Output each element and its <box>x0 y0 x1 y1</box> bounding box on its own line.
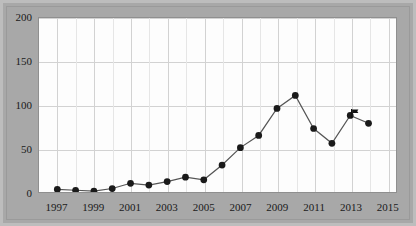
data-point-marker <box>274 105 281 112</box>
data-point-marker <box>182 174 189 181</box>
series-line <box>57 95 368 191</box>
data-point-marker <box>365 120 372 127</box>
data-point-marker <box>145 182 152 189</box>
data-point-marker <box>292 92 299 99</box>
x-tick-label: 2015 <box>377 201 399 213</box>
data-point-marker <box>54 186 61 192</box>
data-point-marker <box>200 176 207 183</box>
data-point-marker <box>310 125 317 132</box>
x-tick-label: 2001 <box>119 201 141 213</box>
x-tick-label: 2011 <box>303 201 325 213</box>
x-tick-label: 2007 <box>230 201 252 213</box>
x-tick-label: 2005 <box>193 201 215 213</box>
data-point-marker <box>255 132 262 139</box>
x-axis-labels: 1997199920012003200520072009201120132015 <box>38 199 397 221</box>
x-tick-label: 1999 <box>82 201 104 213</box>
line-series-layer <box>39 18 396 192</box>
data-point-marker <box>91 188 98 192</box>
y-tick-label: 100 <box>16 100 33 111</box>
x-tick-label: 2003 <box>156 201 178 213</box>
x-tick-label: 2009 <box>266 201 288 213</box>
x-tick-label: 2013 <box>340 201 362 213</box>
chart-frame: 200 150 100 50 0 19971999200120032005200… <box>0 0 416 226</box>
data-point-marker <box>127 180 134 187</box>
data-point-marker <box>219 162 226 169</box>
data-point-marker <box>329 140 336 147</box>
y-tick-label: 0 <box>27 188 33 199</box>
x-tick-label: 1997 <box>45 201 67 213</box>
y-axis-labels: 200 150 100 50 0 <box>3 17 34 193</box>
plot-area <box>38 17 397 193</box>
data-point-marker <box>237 144 244 151</box>
data-point-marker <box>164 178 171 185</box>
flag-icon <box>351 104 360 113</box>
y-tick-label: 50 <box>21 144 32 155</box>
y-tick-label: 150 <box>16 56 33 67</box>
y-tick-label: 200 <box>16 12 33 23</box>
data-point-marker <box>109 185 116 192</box>
data-point-marker <box>72 187 79 192</box>
